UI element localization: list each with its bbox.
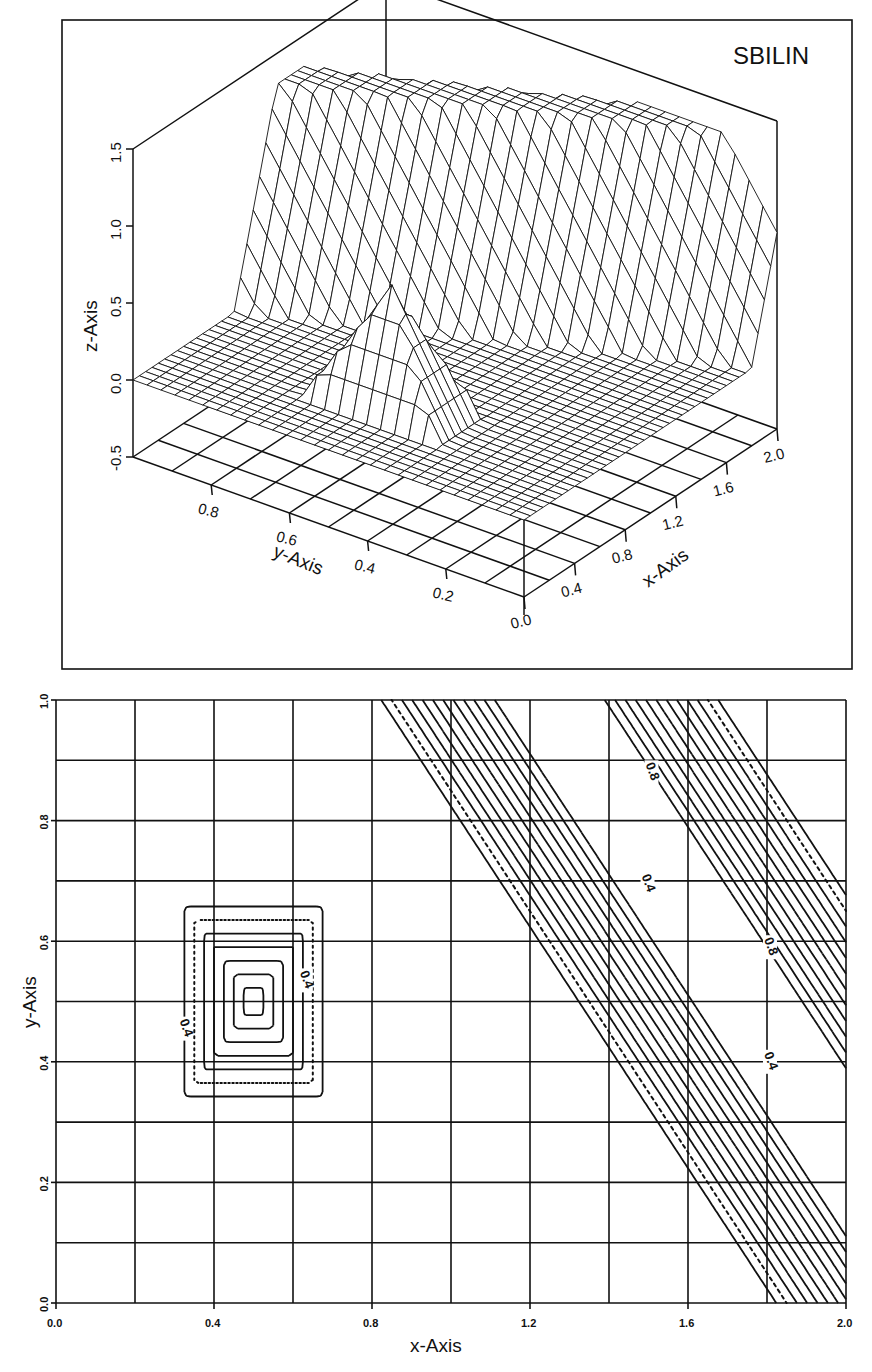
y-tick-label-3d: 0.2 xyxy=(431,583,455,605)
contour-x-axis-title: x-Axis xyxy=(410,1335,462,1356)
y-tick-label-3d: 0.8 xyxy=(196,499,220,521)
y-tick-label: 0.4 xyxy=(38,1055,50,1071)
z-tick-label: 1.5 xyxy=(107,142,124,163)
x-tick-label-3d: 1.6 xyxy=(711,478,735,500)
x-tick-label-3d: 0.4 xyxy=(559,579,583,601)
x-axis-title-3d: x-Axis xyxy=(638,544,692,591)
x-tick-label-3d: 0.8 xyxy=(610,545,634,567)
x-tick-label: 0.0 xyxy=(47,1317,62,1329)
x-tick-label: 1.6 xyxy=(679,1317,694,1329)
contour-level-0.9 xyxy=(464,700,846,1283)
x-tick-label: 0.4 xyxy=(205,1317,221,1329)
y-tick-label-3d: 0.4 xyxy=(353,555,377,577)
x-tick-label: 1.2 xyxy=(521,1317,536,1329)
z-axis-title: z-Axis xyxy=(80,300,101,352)
y-tick-label: 0.2 xyxy=(38,1176,50,1191)
contour-plot: 0.40.40.80.40.80.4 0.00.40.81.21.62.00.0… xyxy=(0,680,872,1372)
x-tick-label-3d: 0.0 xyxy=(509,610,533,632)
z-tick-label: -0.5 xyxy=(107,445,124,471)
contour-level-1.1 xyxy=(484,700,846,1252)
x-tick-label-3d: 2.0 xyxy=(762,444,786,466)
x-tick-label: 0.8 xyxy=(363,1317,378,1329)
z-tick-label: 1.0 xyxy=(107,219,124,240)
x-tick-label: 2.0 xyxy=(837,1317,852,1329)
y-tick-label: 0.8 xyxy=(38,814,50,829)
contour-level-1.2 xyxy=(495,700,846,1236)
contour-y-axis-title: y-Axis xyxy=(19,976,40,1028)
z-tick-label: 0.5 xyxy=(107,296,124,317)
y-tick-label: 1.0 xyxy=(38,694,50,709)
surface-plot: -0.50.00.51.01.50.20.40.60.80.00.40.81.2… xyxy=(0,0,872,680)
z-tick-label: 0.0 xyxy=(107,373,124,394)
chart-title: SBILIN xyxy=(733,42,809,69)
y-tick-label: 0.6 xyxy=(38,935,50,950)
surface-mesh xyxy=(133,66,777,520)
y-tick-label: 0.0 xyxy=(38,1297,50,1312)
x-tick-label-3d: 1.2 xyxy=(660,512,684,534)
y-axis-title-3d: y-Axis xyxy=(271,540,327,579)
